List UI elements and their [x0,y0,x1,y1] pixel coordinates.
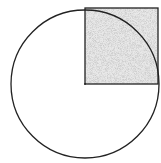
geometry-diagram [0,0,161,163]
center-point [84,83,86,85]
